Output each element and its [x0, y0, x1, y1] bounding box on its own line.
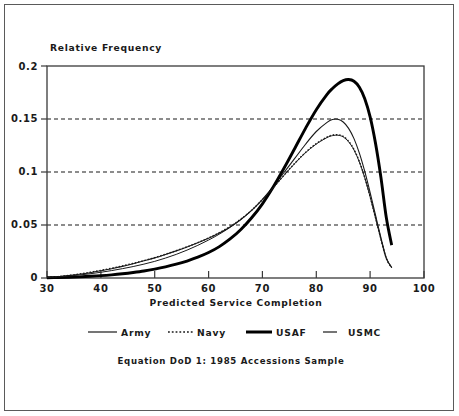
figure-caption: Equation DoD 1: 1985 Accessions Sample: [118, 356, 345, 366]
x-axis-tick-labels: 30 40 50 60 70 80 90 100: [39, 283, 435, 294]
y-axis-tick-labels: 0 0.05 0.1 0.15 0.2: [11, 61, 38, 283]
x-tick-label-60: 60: [201, 283, 216, 294]
x-tick-label-70: 70: [255, 283, 270, 294]
y-axis-title: Relative Frequency: [50, 42, 162, 53]
distribution-chart: 0 0.05 0.1 0.15 0.2 30 40 50 60 70 80 90…: [0, 0, 459, 416]
y-tick-label-0.05: 0.05: [11, 219, 38, 230]
chart-legend: Army Navy USAF USMC: [88, 327, 381, 338]
x-tick-label-40: 40: [93, 283, 108, 294]
x-tick-label-30: 30: [39, 283, 54, 294]
legend-label-army: Army: [121, 327, 151, 338]
x-tick-label-90: 90: [363, 283, 378, 294]
y-axis-ticks: [41, 66, 47, 278]
legend-label-navy: Navy: [197, 327, 226, 338]
figure-container: 0 0.05 0.1 0.15 0.2 30 40 50 60 70 80 90…: [0, 0, 459, 416]
x-tick-label-50: 50: [147, 283, 162, 294]
y-tick-label-0.1: 0.1: [18, 166, 38, 177]
x-axis-title: Predicted Service Completion: [149, 297, 322, 308]
legend-label-usaf: USAF: [276, 327, 307, 338]
y-tick-label-0.15: 0.15: [11, 113, 38, 124]
y-tick-label-0.2: 0.2: [18, 61, 38, 72]
legend-label-usmc: USMC: [348, 327, 381, 338]
x-tick-label-80: 80: [309, 283, 324, 294]
y-tick-label-0: 0: [30, 272, 38, 283]
x-tick-label-100: 100: [413, 283, 436, 294]
